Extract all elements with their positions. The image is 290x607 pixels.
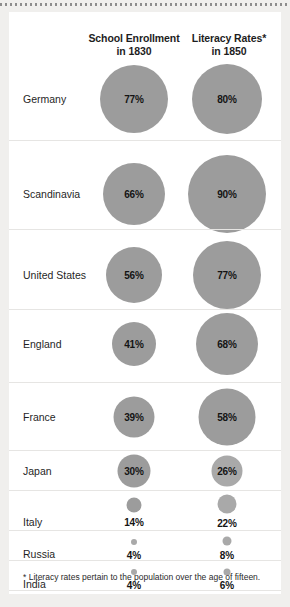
value-enrollment: 14% (124, 517, 144, 528)
infographic-card: School Enrollment in 1830 Literacy Rates… (9, 12, 281, 594)
column-header-line1: Literacy Rates* (181, 32, 277, 45)
value-enrollment: 30% (124, 466, 144, 477)
bubble-chart: School Enrollment in 1830 Literacy Rates… (9, 12, 281, 594)
value-literacy: 26% (217, 466, 237, 477)
value-enrollment: 4% (127, 550, 141, 561)
value-enrollment: 66% (124, 189, 144, 200)
table-row: Italy 14% 22% (9, 490, 281, 531)
row-label: Russia (23, 548, 55, 560)
table-row: Russia 4% 8% (9, 530, 281, 561)
value-literacy: 22% (217, 518, 237, 529)
bubble-enrollment (127, 498, 142, 513)
row-label: England (23, 338, 62, 350)
bubble-literacy (218, 495, 237, 514)
row-label: Japan (23, 465, 52, 477)
bubble-enrollment (131, 539, 137, 545)
table-row: England 41% 68% (9, 309, 281, 383)
value-literacy: 8% (220, 550, 234, 561)
bubble-literacy (223, 537, 232, 546)
column-header-line2: in 1850 (181, 45, 277, 58)
row-label: United States (23, 269, 86, 281)
table-row: France 39% 58% (9, 382, 281, 451)
table-row: Germany 77% 80% (9, 59, 281, 140)
footnote: * Literacy rates pertain to the populati… (23, 572, 273, 583)
table-row: Japan 30% 26% (9, 450, 281, 491)
column-header-school-enrollment: School Enrollment in 1830 (80, 32, 188, 57)
value-literacy: 77% (217, 270, 237, 281)
table-row: United States 56% 77% (9, 229, 281, 310)
value-literacy: 58% (217, 412, 237, 423)
top-dotted-rule (0, 3, 290, 6)
value-enrollment: 56% (124, 270, 144, 281)
row-label: Scandinavia (23, 188, 80, 200)
row-label: France (23, 411, 56, 423)
row-label: Germany (23, 93, 66, 105)
footnote-divider (9, 590, 281, 591)
column-header-literacy-rates: Literacy Rates* in 1850 (181, 32, 277, 57)
column-header-line2: in 1830 (80, 45, 188, 58)
value-enrollment: 77% (124, 94, 144, 105)
value-literacy: 68% (217, 339, 237, 350)
value-literacy: 80% (217, 94, 237, 105)
value-enrollment: 41% (124, 339, 144, 350)
column-header-line1: School Enrollment (80, 32, 188, 45)
table-row: Scandinavia 66% 90% (9, 140, 281, 230)
row-label: Italy (23, 516, 42, 528)
value-literacy: 90% (217, 189, 237, 200)
value-enrollment: 39% (124, 412, 144, 423)
